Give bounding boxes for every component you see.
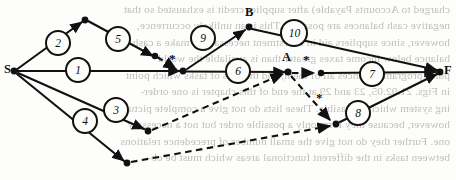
activity-label-7: 7 (363, 65, 381, 83)
node-apex (82, 17, 89, 24)
arrow-activity-10 (252, 29, 437, 70)
figure-canvas: charged to Accounts Payable) after suppl… (0, 0, 456, 180)
activity-label-8: 8 (349, 104, 367, 122)
dummy-star-lower: * (316, 91, 323, 104)
dummy-arrow-4-to-8 (131, 126, 330, 162)
node-pre-8 (333, 121, 340, 128)
node-A (284, 68, 291, 75)
node-S (11, 68, 18, 75)
dummy-star-center: * (303, 53, 310, 66)
node-pre-7 (318, 70, 324, 76)
node-F (437, 69, 444, 76)
dummy-arrow-A-to-8 (291, 76, 330, 120)
activity-label-10: 10 (285, 24, 304, 42)
node-label-S: S (4, 62, 11, 77)
node-label-B: B (245, 5, 253, 20)
node-mid-5 (152, 53, 158, 59)
node-label-A: A (282, 50, 291, 65)
activity-label-1: 1 (69, 61, 87, 79)
node-label-F: F (444, 63, 452, 78)
activity-network-diagram (0, 0, 456, 180)
event-nodes (11, 17, 444, 167)
node-after-4 (124, 160, 131, 167)
dummy-arrow-3-to-A (152, 74, 283, 130)
activity-label-5: 5 (109, 30, 127, 48)
node-B (246, 24, 253, 31)
activity-label-4: 4 (76, 112, 94, 130)
activity-label-9: 9 (194, 29, 212, 47)
activity-circles (46, 20, 384, 133)
dummy-star-left: * (169, 52, 176, 65)
node-spine-junction (180, 68, 187, 75)
activity-label-6: 6 (229, 62, 247, 80)
node-after-3 (145, 128, 152, 135)
activity-label-2: 2 (49, 34, 67, 52)
activity-label-3: 3 (107, 101, 125, 119)
